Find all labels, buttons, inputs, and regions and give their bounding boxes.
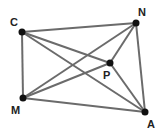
segment-CM xyxy=(22,32,23,98)
segment-CP xyxy=(22,32,110,63)
point-M xyxy=(20,95,27,102)
segment-NP xyxy=(110,23,136,63)
geometry-diagram: CNMAP xyxy=(0,0,163,131)
point-label-N: N xyxy=(138,6,146,18)
point-A xyxy=(142,109,149,116)
point-C xyxy=(19,29,26,36)
point-label-C: C xyxy=(10,16,18,28)
segment-MN xyxy=(23,23,136,98)
edges xyxy=(22,23,145,112)
segment-PA xyxy=(110,63,145,112)
point-label-M: M xyxy=(11,104,20,116)
segment-CN xyxy=(22,23,136,32)
segment-NA xyxy=(136,23,145,112)
point-P xyxy=(107,60,114,67)
point-label-A: A xyxy=(147,118,155,130)
point-N xyxy=(133,20,140,27)
point-label-P: P xyxy=(103,69,110,81)
